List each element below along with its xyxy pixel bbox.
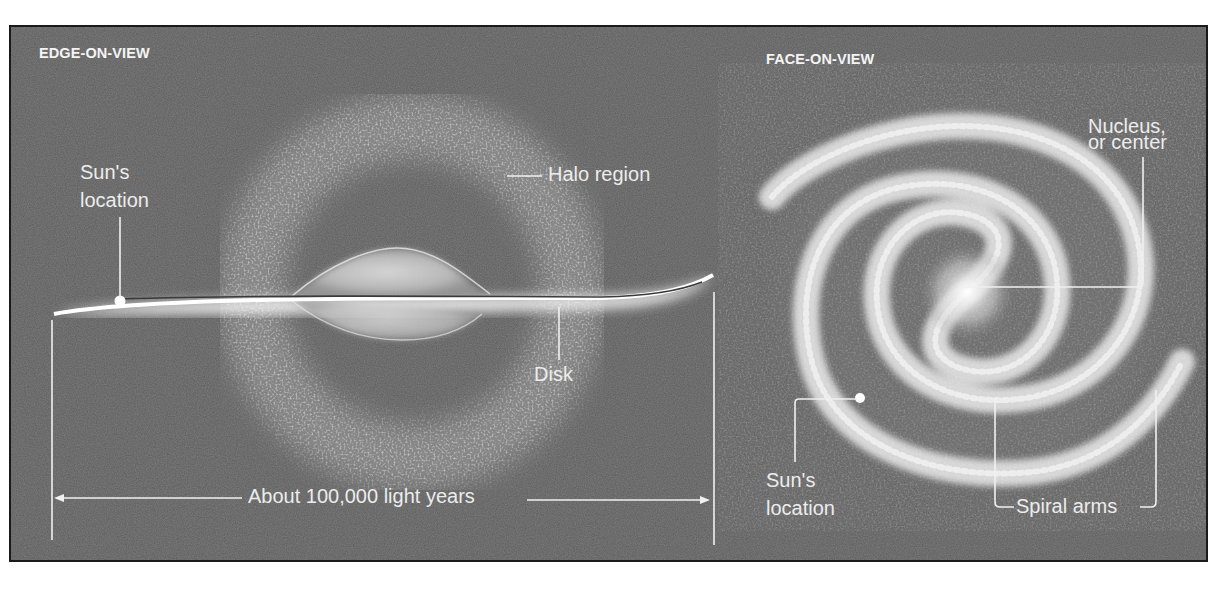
diagram-artwork bbox=[9, 25, 1208, 562]
face-on-galaxy bbox=[762, 102, 1202, 492]
sun-location-marker bbox=[855, 393, 865, 403]
diagram-frame bbox=[9, 25, 1208, 562]
disk-label: Disk bbox=[534, 360, 573, 388]
milky-way-diagram: EDGE-ON-VIEW Sun's location Halo region … bbox=[0, 0, 1226, 591]
edge-on-sun-label-line2: location bbox=[80, 186, 149, 214]
face-on-title: FACE-ON-VIEW bbox=[766, 51, 874, 67]
edge-on-sun-label-line1: Sun's bbox=[80, 158, 129, 186]
edge-on-title: EDGE-ON-VIEW bbox=[39, 45, 150, 61]
nucleus-label-line2: or center bbox=[1088, 128, 1167, 156]
halo-region-label: Halo region bbox=[548, 160, 650, 188]
spiral-arms-label: Spiral arms bbox=[1016, 492, 1117, 520]
face-on-sun-label-line2: location bbox=[766, 494, 835, 522]
face-on-sun-label-line1: Sun's bbox=[766, 466, 815, 494]
scale-label: About 100,000 light years bbox=[248, 482, 475, 510]
